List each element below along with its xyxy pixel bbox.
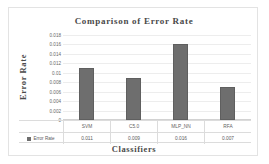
chart-container: Comparison of Error Rate Error Rate 0.01… xyxy=(8,7,258,156)
table-cell-category: SVM xyxy=(63,121,110,132)
legend-label: Error Rate xyxy=(33,136,54,141)
table-cell-value: 0.009 xyxy=(110,133,157,144)
table-row-categories: SVMC5.0MLP_NNRFA xyxy=(19,121,251,132)
legend-swatch-icon xyxy=(27,137,31,141)
table-cell-category: MLP_NN xyxy=(157,121,204,132)
bar[interactable] xyxy=(173,44,188,120)
y-axis-tick-label: 0.014 xyxy=(27,51,61,56)
y-axis-tick-label: 0.016 xyxy=(27,42,61,47)
y-axis-tick-label: 0.002 xyxy=(27,108,61,113)
y-axis-tick-labels: 0.0180.0160.0140.0120.010.0080.0060.0040… xyxy=(27,35,61,120)
y-axis-tick-label: 0.01 xyxy=(27,70,61,75)
table-cell-category: RFA xyxy=(204,121,251,132)
y-axis-tick-label: 0.006 xyxy=(27,89,61,94)
table-row-values: Error Rate 0.0110.0090.0160.007 xyxy=(19,132,251,144)
y-axis-tick-label: 0.018 xyxy=(27,33,61,38)
bar-series xyxy=(63,35,251,120)
bar-slot xyxy=(63,35,110,120)
y-axis-tick-label: 0.012 xyxy=(27,61,61,66)
table-cell-value: 0.007 xyxy=(204,133,251,144)
legend-cell-empty xyxy=(19,121,63,132)
y-axis-tick-label: 0.004 xyxy=(27,99,61,104)
plot-area xyxy=(63,35,251,120)
bar-slot xyxy=(204,35,251,120)
bar[interactable] xyxy=(220,87,235,120)
chart-title: Comparison of Error Rate xyxy=(9,16,259,26)
legend-entry-error-rate: Error Rate xyxy=(19,133,63,144)
bar-slot xyxy=(110,35,157,120)
x-axis-title: Classifiers xyxy=(9,144,259,154)
table-cell-value: 0.016 xyxy=(157,133,204,144)
y-axis-tick-label: 0.008 xyxy=(27,80,61,85)
data-table: SVMC5.0MLP_NNRFA Error Rate 0.0110.0090.… xyxy=(19,120,251,143)
bar[interactable] xyxy=(79,68,94,120)
table-cell-value: 0.011 xyxy=(63,133,110,144)
bar-slot xyxy=(157,35,204,120)
bar[interactable] xyxy=(126,78,141,121)
table-cell-category: C5.0 xyxy=(110,121,157,132)
